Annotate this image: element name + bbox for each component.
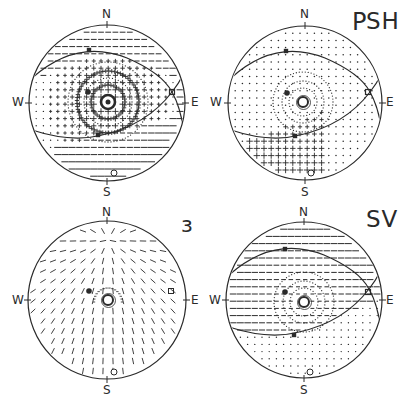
square-marker (87, 48, 91, 52)
primitive-circle (226, 222, 382, 378)
bullseye-marker (298, 296, 312, 310)
filled-dot-marker (86, 288, 92, 294)
bullseye-marker (102, 294, 116, 308)
square-marker (283, 247, 287, 251)
filled-dot-marker (282, 289, 288, 295)
label-sv: SV (366, 206, 398, 232)
compass-s-epsilon: S (103, 384, 111, 396)
stereonet-figure (0, 0, 406, 407)
square-marker (96, 133, 100, 137)
compass-w-sv: W (209, 294, 221, 306)
compass-w-epsilon: W (12, 294, 24, 306)
compass-n-sh: N (300, 8, 309, 20)
open-circle-marker (111, 369, 117, 375)
pattern-symbols (234, 32, 372, 173)
bullseye-marker (101, 95, 115, 109)
open-circle-marker (111, 170, 117, 176)
panel-sh (224, 22, 386, 184)
compass-e-epsilon: E (191, 294, 199, 306)
nodal-planes (231, 51, 382, 138)
panel-sv (222, 218, 386, 382)
open-circle-marker (307, 369, 313, 375)
primitive-circle (228, 26, 382, 180)
compass-n-epsilon: N (102, 206, 111, 218)
compass-w-p: W (12, 96, 24, 108)
panel-p (25, 21, 189, 185)
compass-n-sv: N (299, 206, 308, 218)
bullseye-marker (297, 96, 311, 110)
compass-e-sv: E (386, 294, 394, 306)
square-marker (284, 49, 288, 53)
panel-epsilon (24, 217, 190, 383)
label-epsilon: ɜ (181, 212, 194, 237)
compass-s-p: S (103, 186, 111, 198)
square-marker (292, 333, 296, 337)
compass-w-sh: W (210, 96, 222, 108)
compass-s-sv: S (300, 384, 308, 396)
nodal-planes (229, 248, 381, 335)
label-sh: SH (366, 8, 400, 34)
compass-e-p: E (191, 96, 199, 108)
filled-dot-marker (85, 89, 91, 95)
compass-e-sh: E (386, 96, 394, 108)
open-circle-marker (308, 170, 314, 176)
filled-dot-marker (284, 90, 290, 96)
compass-s-sh: S (301, 186, 309, 198)
compass-n-p: N (102, 8, 111, 20)
square-marker (293, 134, 297, 138)
